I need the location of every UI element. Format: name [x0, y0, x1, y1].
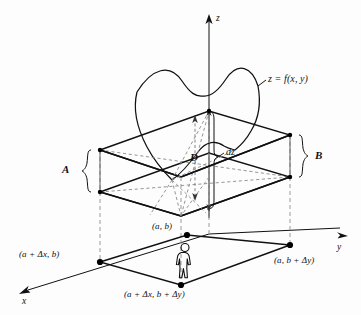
dot-upper-right — [288, 133, 292, 137]
dot-upper-left — [98, 148, 102, 152]
y-axis-arrowhead — [337, 232, 348, 238]
lower-plane-front-right — [181, 177, 290, 216]
base-outline — [100, 235, 290, 285]
person-body — [176, 253, 190, 278]
point-label-x-corner: (a + Δx, b) — [19, 250, 59, 259]
person-head — [181, 244, 189, 252]
dot-origin-corner — [184, 232, 190, 238]
dot-lower-right — [288, 175, 292, 179]
upper-plane-front-left — [100, 150, 181, 177]
surface-sheet — [135, 68, 266, 180]
y-axis-label: y — [337, 243, 341, 253]
bracket-B — [299, 135, 308, 177]
measure-A-label: A — [62, 164, 69, 175]
measure-B-label: B — [315, 150, 322, 161]
x-axis-label: x — [22, 297, 26, 307]
x-axis — [28, 234, 209, 290]
ray-to-upper-top — [172, 111, 209, 180]
measure-D-label: D — [190, 152, 198, 163]
standing-person-icon — [176, 244, 190, 278]
surface-equation-label: z = f(x, y) — [268, 74, 308, 84]
y-axis — [209, 228, 340, 234]
measure-dz-label: dz — [226, 147, 235, 157]
dot-x-corner — [97, 259, 103, 265]
bracket-dz — [207, 111, 224, 209]
dot-far-corner — [178, 282, 184, 288]
point-label-y-corner: (a, b + Δy) — [274, 256, 314, 265]
dot-y-corner — [287, 242, 293, 248]
point-label-far-corner: (a + Δx, b + Δy) — [124, 290, 185, 299]
base-rectangle — [100, 235, 290, 285]
z-axis-label: z — [216, 14, 220, 24]
diagram-canvas — [0, 0, 361, 315]
surface-right-skirt — [235, 86, 259, 150]
surface-label-leader — [258, 80, 266, 86]
lower-plane-front-left — [100, 192, 181, 216]
dot-upper-top — [207, 109, 211, 113]
surface-top-edge — [137, 68, 258, 96]
point-label-origin-corner: (a, b) — [152, 222, 172, 231]
ray-to-lower-front — [172, 180, 181, 216]
tangent-plane-diagram: z y x z = f(x, y) A B D dz (a, b) (a + Δ… — [0, 0, 361, 315]
bracket-A — [82, 150, 91, 192]
dot-lower-left — [98, 190, 102, 194]
